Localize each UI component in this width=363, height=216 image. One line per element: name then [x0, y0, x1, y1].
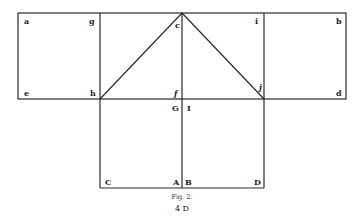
figure-caption: Fig. 2. [171, 193, 192, 201]
label-C: C [105, 177, 111, 187]
label-i: i [255, 16, 258, 26]
label-I: I [187, 103, 191, 113]
diagonal-c-j [182, 13, 264, 99]
label-j: j [257, 82, 262, 92]
label-b: b [336, 16, 342, 26]
label-e: e [24, 88, 29, 98]
label-A: A [172, 177, 180, 187]
diagonal-h-c [100, 13, 182, 99]
label-D: D [254, 177, 261, 187]
label-f: f [173, 88, 179, 98]
label-d: d [336, 88, 342, 98]
label-G: G [172, 103, 179, 113]
label-c: c [175, 20, 180, 30]
label-a: a [24, 16, 29, 26]
label-h: h [90, 88, 96, 98]
label-g: g [89, 16, 95, 26]
geometric-figure: a g c i b e h f j d G I C A B D Fig. 2. … [0, 0, 363, 216]
label-B: B [185, 177, 192, 187]
page-footer: 4 D [175, 204, 189, 213]
